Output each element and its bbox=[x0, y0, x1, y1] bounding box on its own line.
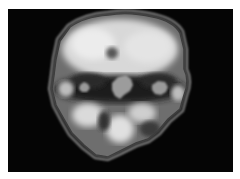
brain-scan-image bbox=[8, 9, 233, 172]
scan-panel: Grayscale coronal brain scan (SPECT/PET-… bbox=[8, 9, 233, 172]
